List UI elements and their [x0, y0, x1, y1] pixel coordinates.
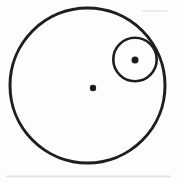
figure-svg — [0, 0, 177, 182]
outer-circle — [10, 8, 165, 163]
inner-circle-center-dot — [132, 57, 139, 64]
scan-smudge-bottom — [6, 176, 171, 178]
figure-canvas — [0, 0, 177, 182]
scan-smudge-top-right — [142, 10, 168, 12]
outer-circle-center-dot — [90, 85, 96, 91]
